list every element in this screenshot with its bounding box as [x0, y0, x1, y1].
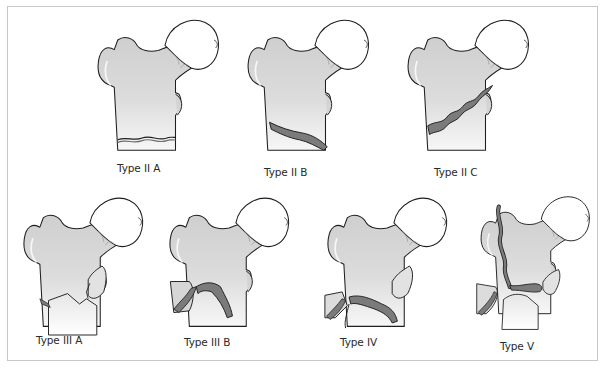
- femur-type-5-illustration: [472, 190, 598, 335]
- label-type-2c: Type II C: [434, 166, 477, 178]
- figure-type-2c: Type II C: [398, 14, 548, 179]
- figure-type-5: Type V: [472, 190, 602, 355]
- figure-type-2a: Type II A: [88, 14, 228, 179]
- label-type-2a: Type II A: [117, 162, 160, 174]
- femur-type-4-illustration: [318, 196, 456, 336]
- femur-type-2a-illustration: [88, 14, 228, 164]
- femur-type-2b-illustration: [238, 14, 378, 164]
- label-type-3a: Type III A: [36, 334, 82, 346]
- femur-type-3a-illustration: [14, 196, 152, 336]
- label-type-3b: Type III B: [184, 336, 230, 348]
- figure-type-3a: Type III A: [14, 196, 154, 356]
- label-type-2b: Type II B: [264, 166, 307, 178]
- figure-type-4: Type IV: [318, 196, 468, 356]
- femur-type-2c-illustration: [398, 14, 538, 164]
- figure-type-2b: Type II B: [238, 14, 383, 179]
- label-type-5: Type V: [500, 340, 534, 352]
- label-type-4: Type IV: [340, 336, 377, 348]
- femur-type-3b-illustration: [160, 196, 298, 336]
- figure-type-3b: Type III B: [160, 196, 310, 356]
